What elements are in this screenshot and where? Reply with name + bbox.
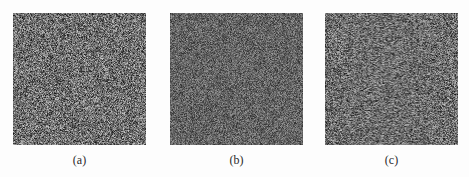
noise-image-a: [13, 13, 146, 145]
caption-c: (c): [325, 153, 458, 167]
noise-image-b: [170, 13, 303, 145]
subfigure-a: [13, 13, 146, 145]
subfigure-b: [170, 13, 303, 145]
noise-image-c: [325, 13, 458, 145]
subfigure-c: [325, 13, 458, 145]
caption-a: (a): [13, 153, 146, 167]
figure: (a) (b) (c): [0, 0, 469, 177]
caption-b: (b): [170, 153, 303, 167]
